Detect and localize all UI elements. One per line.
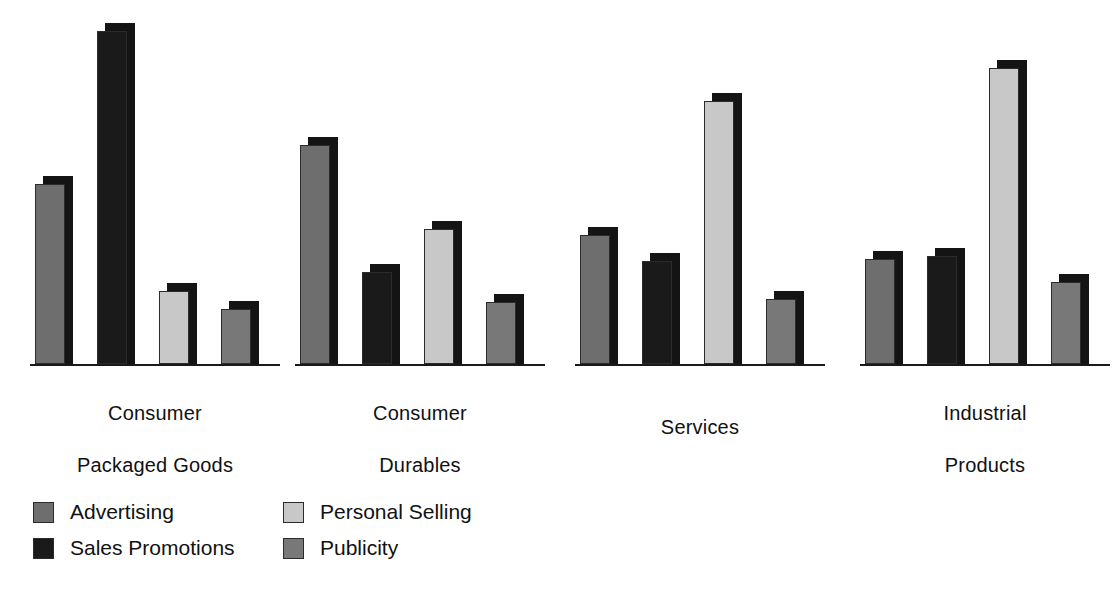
category-label-line1: Consumer <box>20 400 290 426</box>
legend-label: Advertising <box>70 500 174 524</box>
group-bars <box>30 64 280 364</box>
group-baseline <box>295 364 545 366</box>
category-label-consumer-durables: Consumer Durables <box>285 374 555 504</box>
legend-item-personal-selling[interactable]: Personal Selling <box>283 496 472 528</box>
bar-face-sales-promotions <box>362 272 392 364</box>
category-label-line2: Durables <box>285 452 555 478</box>
bar-face-sales-promotions <box>642 261 672 364</box>
legend-column-right: Personal Selling Publicity <box>283 496 472 568</box>
category-label-line2: Packaged Goods <box>20 452 290 478</box>
bar-face-personal-selling <box>159 291 189 364</box>
advertising-swatch-icon <box>33 502 54 523</box>
category-label-line1: Consumer <box>285 400 555 426</box>
group-bars <box>295 64 545 364</box>
bar-face-advertising <box>865 259 895 364</box>
bar-face-advertising <box>300 145 330 364</box>
bar-face-sales-promotions <box>97 31 127 364</box>
publicity-swatch-icon <box>283 538 304 559</box>
group-bars <box>860 64 1110 364</box>
chart-legend: Advertising Sales Promotions Personal Se… <box>0 496 1114 576</box>
sales-promotions-swatch-icon <box>33 538 54 559</box>
group-bars <box>575 64 825 364</box>
group-baseline <box>575 364 825 366</box>
bar-face-personal-selling <box>424 229 454 364</box>
bar-face-personal-selling <box>704 101 734 364</box>
group-baseline <box>30 364 280 366</box>
bar-group-services <box>575 0 825 440</box>
legend-item-advertising[interactable]: Advertising <box>33 496 235 528</box>
legend-label: Publicity <box>320 536 398 560</box>
legend-column-left: Advertising Sales Promotions <box>33 496 235 568</box>
bar-face-publicity <box>486 302 516 364</box>
category-label-line1: Services <box>565 414 835 440</box>
bar-face-publicity <box>1051 282 1081 364</box>
category-label-line1: Industrial <box>850 400 1114 426</box>
legend-item-publicity[interactable]: Publicity <box>283 532 472 564</box>
group-baseline <box>860 364 1110 366</box>
category-label-consumer-packaged-goods: Consumer Packaged Goods <box>20 374 290 504</box>
category-label-industrial-products: Industrial Products <box>850 374 1114 504</box>
personal-selling-swatch-icon <box>283 502 304 523</box>
category-label-services: Services <box>565 388 835 466</box>
bar-face-publicity <box>766 299 796 364</box>
legend-label: Sales Promotions <box>70 536 235 560</box>
bar-face-personal-selling <box>989 68 1019 364</box>
bar-face-advertising <box>35 184 65 364</box>
bar-face-sales-promotions <box>927 256 957 364</box>
legend-label: Personal Selling <box>320 500 472 524</box>
bar-face-publicity <box>221 309 251 364</box>
bar-face-advertising <box>580 235 610 364</box>
legend-item-sales-promotions[interactable]: Sales Promotions <box>33 532 235 564</box>
category-label-line2: Products <box>850 452 1114 478</box>
bar-chart: Consumer Packaged Goods Consumer Durable… <box>0 0 1114 615</box>
